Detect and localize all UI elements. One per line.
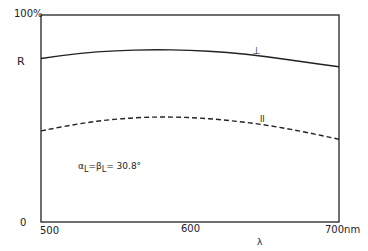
y-axis-label: R (17, 56, 25, 67)
parallel-curve (41, 117, 339, 139)
angle-annotation: αL=βL= 30.8° (78, 162, 141, 174)
x-tick-500: 500 (40, 226, 59, 236)
equals-sign: = (88, 161, 96, 171)
plot-frame (41, 15, 339, 222)
y-tick-100: 100% (14, 9, 43, 19)
perp-curve (41, 50, 339, 67)
chart-canvas (0, 0, 368, 251)
angle-value: = 30.8° (106, 161, 141, 171)
x-tick-600: 600 (181, 224, 200, 234)
y-tick-0: 0 (20, 218, 26, 228)
x-tick-700: 700nm (325, 225, 360, 235)
x-axis-label: λ (257, 238, 262, 247)
parallel-curve-label: II (260, 116, 265, 124)
perp-curve-label: ⊥ (252, 46, 261, 56)
